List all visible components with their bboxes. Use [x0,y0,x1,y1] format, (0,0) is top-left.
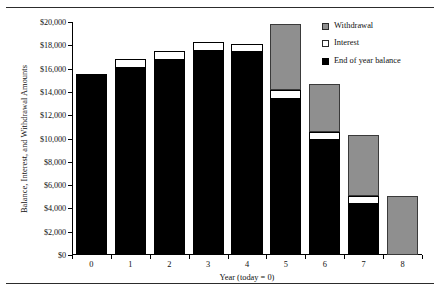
y-tick-label: $10,000 [40,134,72,143]
y-tick-label: $14,000 [40,87,72,96]
interest-swatch-icon [322,40,329,47]
x-tick-mark [72,255,73,259]
y-tick-label: $0 [58,251,72,260]
bar-segment-withdrawal[interactable] [309,84,340,132]
y-axis-label: Balance, Interest, and Withdrawal Amount… [20,22,29,255]
bar-segment-interest[interactable] [193,42,224,51]
y-tick-label: $8,000 [44,157,72,166]
bar-segment-interest[interactable] [115,59,146,68]
bar-segment-balance[interactable] [348,204,379,255]
y-tick-label: $16,000 [40,64,72,73]
x-tick-label: 7 [362,260,366,269]
bar-segment-balance[interactable] [309,140,340,255]
bar-segment-withdrawal[interactable] [270,24,301,89]
x-tick-label: 8 [400,260,404,269]
top-horizontal-rule [6,7,434,8]
chart-legend: WithdrawalInterestEnd of year balance [322,22,401,74]
x-tick-label: 1 [128,260,132,269]
legend-item: Interest [322,39,401,47]
x-tick-label: 6 [323,260,327,269]
bar-group-year-0[interactable] [76,22,107,255]
x-tick-label: 4 [245,260,249,269]
bar-group-year-2[interactable] [154,22,185,255]
bottom-horizontal-rule [6,283,434,284]
bar-segment-interest[interactable] [309,132,340,140]
x-tick-mark [189,255,190,259]
bar-segment-balance[interactable] [270,99,301,255]
bar-segment-balance[interactable] [231,52,262,255]
figure-container: $0$2,000$4,000$6,000$8,000$10,000$12,000… [0,0,440,293]
bar-group-year-3[interactable] [193,22,224,255]
bar-segment-withdrawal[interactable] [387,196,418,255]
x-tick-label: 0 [89,260,93,269]
x-tick-label: 3 [206,260,210,269]
legend-item-label: End of year balance [334,57,401,65]
x-tick-mark [266,255,267,259]
y-tick-label: $12,000 [40,111,72,120]
bar-segment-interest[interactable] [154,51,185,60]
x-tick-mark [150,255,151,259]
x-tick-mark [111,255,112,259]
x-tick-label: 5 [284,260,288,269]
legend-item: Withdrawal [322,22,401,30]
bar-segment-interest[interactable] [231,44,262,52]
y-tick-label: $20,000 [40,18,72,27]
bar-segment-withdrawal[interactable] [348,135,379,196]
bar-group-year-1[interactable] [115,22,146,255]
legend-item-label: Withdrawal [334,22,373,30]
legend-item-label: Interest [334,39,359,47]
balance-swatch-icon [322,58,329,65]
bar-segment-balance[interactable] [193,51,224,255]
bar-group-year-4[interactable] [231,22,262,255]
withdrawal-swatch-icon [322,23,329,30]
x-tick-mark [344,255,345,259]
bar-segment-balance[interactable] [154,60,185,255]
bar-segment-interest[interactable] [270,90,301,99]
bar-segment-balance[interactable] [76,74,107,255]
bar-group-year-5[interactable] [270,22,301,255]
y-tick-label: $4,000 [44,204,72,213]
x-axis-label: Year (today = 0) [72,273,422,282]
y-tick-label: $18,000 [40,41,72,50]
bar-segment-balance[interactable] [115,68,146,255]
x-tick-label: 2 [167,260,171,269]
y-tick-label: $6,000 [44,181,72,190]
y-tick-label: $2,000 [44,227,72,236]
x-tick-mark [383,255,384,259]
x-tick-mark [228,255,229,259]
x-tick-mark [305,255,306,259]
legend-item: End of year balance [322,57,401,65]
x-tick-mark [422,255,423,259]
bar-segment-interest[interactable] [348,196,379,204]
